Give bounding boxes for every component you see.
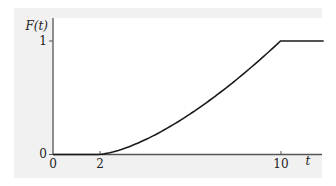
y-axis-label: F(t)	[24, 19, 48, 33]
x-tick-label-2: 2	[96, 157, 104, 171]
x-tick-label-0: 0	[49, 157, 57, 171]
x-tick-label-10: 10	[273, 157, 288, 171]
cdf-curve	[53, 41, 324, 155]
x-axis-label: t	[306, 154, 311, 168]
y-tick-label-1: 1	[39, 34, 47, 48]
y-tick-label-0: 0	[39, 147, 47, 161]
chart-svg: F(t) 1 0 0 2 10 t	[0, 0, 336, 186]
